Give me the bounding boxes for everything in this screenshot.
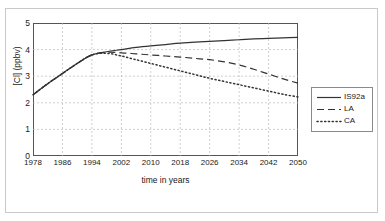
x-tick-label: 2042 <box>260 159 278 167</box>
legend-label: LA <box>342 105 354 113</box>
x-axis-ticks: 1978198619942002201020182026203420422050 <box>33 159 298 171</box>
series-line-ca <box>33 53 298 97</box>
x-tick-label: 2002 <box>112 159 130 167</box>
series-lines <box>33 37 298 97</box>
plot-svg <box>33 23 298 156</box>
legend-line-dashed-icon <box>316 105 342 114</box>
chart-area: 012345 197819861994200220102018202620342… <box>6 9 379 214</box>
x-tick-label: 2026 <box>201 159 219 167</box>
legend-label: CA <box>342 117 355 125</box>
series-line-la <box>33 52 298 95</box>
legend-item-la[interactable]: LA <box>312 103 372 115</box>
legend-label: IS92a <box>342 93 365 101</box>
legend-item-ca[interactable]: CA <box>312 115 372 127</box>
x-tick-label: 2034 <box>230 159 248 167</box>
legend-item-is92a[interactable]: IS92a <box>312 91 372 103</box>
x-tick-label: 1978 <box>24 159 42 167</box>
x-tick-label: 2018 <box>171 159 189 167</box>
legend-line-solid-icon <box>316 93 342 102</box>
x-tick-label: 1986 <box>54 159 72 167</box>
figure-frame: 012345 197819861994200220102018202620342… <box>5 8 378 213</box>
y-tick-label: 1 <box>8 125 30 134</box>
x-tick-label: 2050 <box>289 159 307 167</box>
x-axis-label: time in years <box>33 175 298 185</box>
y-axis-label: [Cl] (ppbv) <box>12 18 22 114</box>
legend-line-dotted-icon <box>316 117 342 126</box>
x-tick-label: 1994 <box>83 159 101 167</box>
x-tick-label: 2010 <box>142 159 160 167</box>
chart-legend: IS92aLACA <box>311 87 373 132</box>
grid-lines <box>33 23 298 156</box>
